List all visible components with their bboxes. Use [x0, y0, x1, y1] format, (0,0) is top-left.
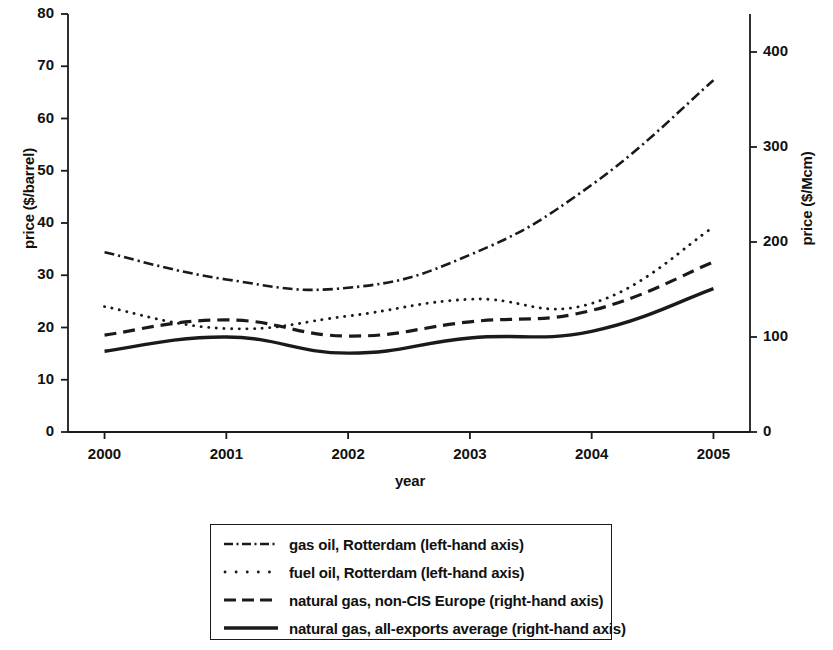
legend-item-fuel-oil: fuel oil, Rotterdam (left-hand axis) [223, 559, 524, 585]
legend-swatch-dashed [223, 593, 279, 607]
legend-label-natural-gas-non-cis: natural gas, non-CIS Europe (right-hand … [289, 592, 603, 609]
legend-label-gas-oil: gas oil, Rotterdam (left-hand axis) [289, 536, 524, 553]
legend-label-natural-gas-all-exports: natural gas, all-exports average (right-… [289, 620, 626, 637]
data-series-layer [105, 80, 714, 353]
legend: gas oil, Rotterdam (left-hand axis) fuel… [210, 524, 612, 640]
legend-item-natural-gas-non-cis: natural gas, non-CIS Europe (right-hand … [223, 587, 603, 613]
legend-item-natural-gas-all-exports: natural gas, all-exports average (right-… [223, 615, 626, 641]
legend-swatch-dotted [223, 565, 279, 579]
legend-swatch-solid [223, 621, 279, 635]
legend-item-gas-oil: gas oil, Rotterdam (left-hand axis) [223, 531, 524, 557]
legend-label-fuel-oil: fuel oil, Rotterdam (left-hand axis) [289, 564, 524, 581]
series-line-3 [105, 289, 714, 354]
legend-swatch-dash-dot [223, 537, 279, 551]
chart-figure: price ($/barrel) price ($/Mcm) year 0102… [0, 0, 833, 650]
series-line-0 [105, 80, 714, 290]
axes-lines [61, 14, 757, 439]
